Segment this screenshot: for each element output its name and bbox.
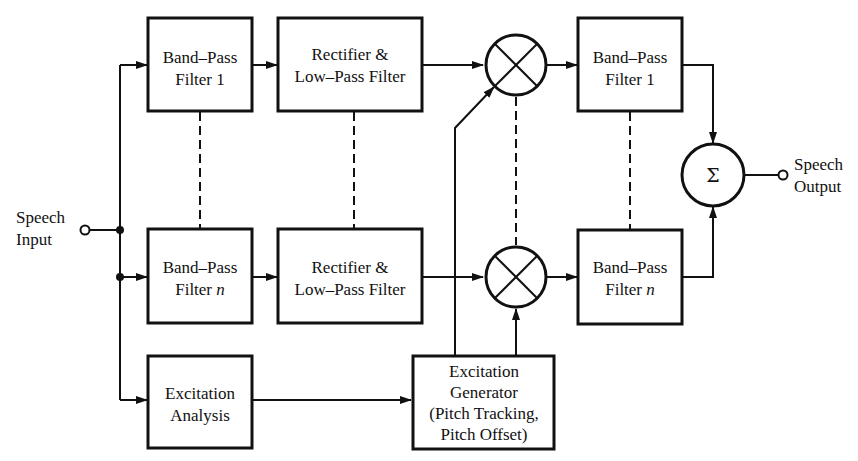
synthesis-bpf-n-line2: Filter n <box>605 280 655 299</box>
arrow-generator-to-multiplier1 <box>455 87 494 355</box>
rectifier-n-line2: Low–Pass Filter <box>295 280 406 299</box>
rectifier-lpf-n-block: Rectifier & Low–Pass Filter <box>278 229 422 323</box>
junction-dot <box>116 226 124 234</box>
synthesis-bpf-1-line1: Band–Pass <box>593 48 668 67</box>
analysis-bpf-1-block: Band–Pass Filter 1 <box>148 18 252 111</box>
summer-block: Σ <box>682 144 744 206</box>
multiplier-1 <box>486 35 546 95</box>
excitation-generator-block: Excitation Generator (Pitch Tracking, Pi… <box>413 356 554 449</box>
synthesis-bpf-1-line2: Filter 1 <box>605 70 655 89</box>
analysis-bpf-n-block: Band–Pass Filter n <box>148 229 252 323</box>
speech-output-terminal <box>779 171 788 180</box>
excitation-analysis-line1: Excitation <box>165 384 235 403</box>
junction-dot <box>116 273 124 281</box>
excitation-generator-line2: Generator <box>450 383 518 402</box>
analysis-bpf-1-line2: Filter 1 <box>175 70 225 89</box>
arrow-synth-bpf1-to-sum <box>682 65 713 143</box>
rectifier-1-line2: Low–Pass Filter <box>295 67 406 86</box>
arrow-synth-bpfn-to-sum <box>682 207 713 277</box>
speech-input-label-line2: Input <box>16 230 52 249</box>
analysis-bpf-n-line2: Filter n <box>175 280 225 299</box>
synthesis-bpf-n-line1: Band–Pass <box>593 258 668 277</box>
excitation-generator-line1: Excitation <box>449 362 519 381</box>
rectifier-n-line1: Rectifier & <box>312 258 389 277</box>
rectifier-1-line1: Rectifier & <box>312 45 389 64</box>
synthesis-bpf-1-block: Band–Pass Filter 1 <box>578 18 682 111</box>
speech-input-terminal <box>81 226 90 235</box>
excitation-generator-line4: Pitch Offset) <box>440 425 527 444</box>
synthesis-bpf-n-block: Band–Pass Filter n <box>578 230 682 324</box>
analysis-bpf-n-line1: Band–Pass <box>163 258 238 277</box>
vocoder-diagram: Speech Input Speech Output Band–Pass Fil… <box>0 0 858 461</box>
excitation-generator-line3: (Pitch Tracking, <box>429 404 539 423</box>
excitation-analysis-line2: Analysis <box>170 406 230 425</box>
sigma-icon: Σ <box>706 164 719 186</box>
multiplier-n <box>486 247 546 307</box>
excitation-analysis-block: Excitation Analysis <box>148 356 252 448</box>
rectifier-lpf-1-block: Rectifier & Low–Pass Filter <box>278 18 422 111</box>
speech-output-label-line2: Output <box>794 177 842 196</box>
analysis-bpf-1-line1: Band–Pass <box>163 48 238 67</box>
speech-output-label-line1: Speech <box>794 155 844 174</box>
speech-input-label-line1: Speech <box>16 208 66 227</box>
